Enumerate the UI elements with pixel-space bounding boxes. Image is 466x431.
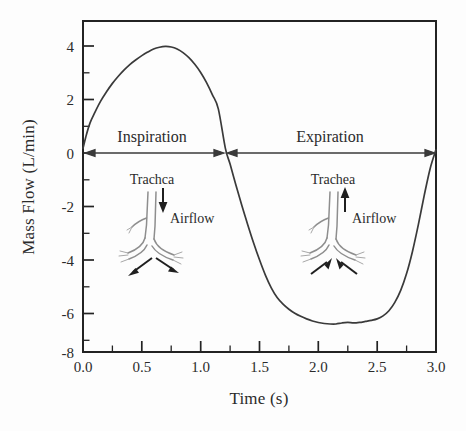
y-tick-label: 0	[67, 146, 75, 162]
x-tick-label: 2.5	[368, 359, 387, 375]
inspiration-airway-diagram: Trachca Airflow	[119, 172, 215, 276]
trachea-label-expiration: Trachea	[311, 172, 356, 187]
x-axis-title: Time (s)	[229, 389, 288, 408]
airflow-label-inspiration: Airflow	[170, 211, 215, 226]
x-axis-ticks	[83, 341, 436, 352]
airflow-arrowhead-up	[341, 187, 350, 198]
x-tick-labels: 0.0 0.5 1.0 1.5 2.0 2.5 3.0	[74, 359, 446, 375]
y-tick-label: 4	[67, 39, 75, 55]
y-axis-ticks	[83, 46, 94, 352]
x-tick-label: 1.5	[250, 359, 269, 375]
y-tick-label: -2	[62, 199, 75, 215]
x-tick-label: 0.5	[132, 359, 151, 375]
expiration-span-arrow	[227, 150, 435, 157]
figure-container: 4 2 0 -2 -4 -6 -8 0.0 0.5	[0, 0, 466, 431]
inspiration-span-arrow	[85, 150, 224, 157]
y-tick-label: -6	[62, 306, 75, 322]
inspiration-label: Inspiration	[117, 128, 186, 146]
trachea-label-inspiration: Trachca	[130, 172, 175, 187]
y-tick-label: 2	[67, 92, 75, 108]
y-tick-label: -8	[62, 345, 75, 361]
y-axis-title: Mass Flow (L/min)	[19, 119, 38, 255]
y-tick-label: -4	[62, 253, 75, 269]
mass-flow-chart: 4 2 0 -2 -4 -6 -8 0.0 0.5	[0, 0, 466, 431]
expiration-airway-diagram: Trachea Airflow	[301, 172, 397, 274]
airflow-arrowhead-down	[159, 202, 168, 213]
x-tick-label: 2.0	[309, 359, 328, 375]
x-tick-label: 0.0	[74, 359, 93, 375]
airflow-label-expiration: Airflow	[352, 211, 397, 226]
x-tick-label: 1.0	[191, 359, 210, 375]
expiration-label: Expiration	[296, 128, 364, 146]
x-tick-label: 3.0	[427, 359, 446, 375]
y-tick-labels: 4 2 0 -2 -4 -6 -8	[62, 39, 75, 361]
